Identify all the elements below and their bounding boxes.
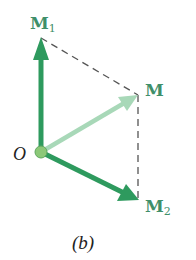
label-origin: O (13, 145, 26, 163)
vector-m-arrow (41, 95, 138, 152)
figure-caption: (b) (72, 233, 94, 252)
dashed-line-m1-to-m (41, 38, 138, 95)
diagram-graphics (0, 0, 196, 260)
vector-m1-arrow (33, 37, 49, 152)
label-m1: M1 (30, 15, 56, 34)
vector-m2-arrow (41, 152, 139, 201)
label-m2: M2 (145, 198, 171, 217)
vector-addition-diagram: M1 M M2 O (b) (0, 0, 196, 260)
origin-point (35, 146, 47, 158)
label-m: M (145, 82, 164, 99)
